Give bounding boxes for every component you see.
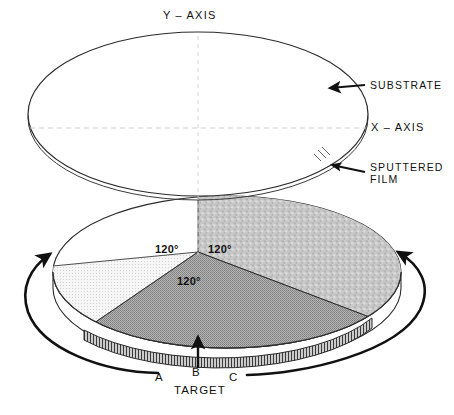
segment-c-angle-label: 120° — [208, 243, 232, 255]
segment-b-angle-label: 120° — [177, 275, 201, 287]
target-caption: TARGET — [174, 384, 226, 396]
target-assembly — [48, 194, 411, 368]
sputtered-film-line-2: FILM — [370, 173, 398, 185]
y-axis-label: Y – AXIS — [163, 9, 216, 21]
sputtered-film-line-1: SPUTTERED — [370, 161, 444, 173]
x-axis-label: X – AXIS — [371, 121, 425, 133]
sputtering-diagram — [0, 0, 454, 415]
substrate-label: SUBSTRATE — [370, 79, 442, 91]
segment-a-angle-label: 120° — [155, 243, 179, 255]
sputtered-film-leader — [332, 165, 365, 172]
segment-c-label: C — [229, 371, 238, 383]
segment-a-label: A — [155, 371, 163, 383]
segment-b-label: B — [192, 366, 200, 378]
substrate-disc — [28, 32, 368, 196]
sputtered-film-label: SPUTTERED FILM — [370, 161, 444, 185]
